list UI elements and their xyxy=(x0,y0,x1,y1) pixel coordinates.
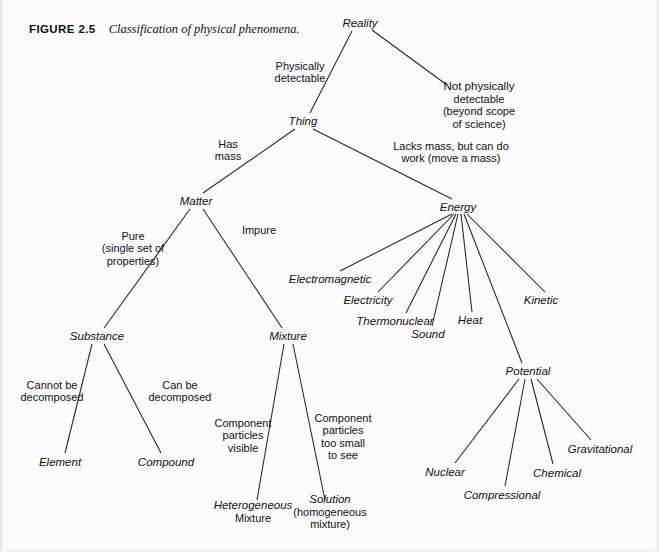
edge-label-has-mass: Hasmass xyxy=(215,138,241,163)
node-electricity: Electricity xyxy=(343,294,392,307)
edge-label-line: to see xyxy=(315,449,372,461)
edge-label-line: Can be xyxy=(149,379,212,391)
node-kinetic: Kinetic xyxy=(524,294,559,307)
node-label: Matter xyxy=(180,195,213,207)
edge-label-line: properties) xyxy=(102,254,164,266)
node-reality: Reality xyxy=(342,17,377,30)
node-sound: Sound xyxy=(411,328,444,341)
edge-label-line: particles xyxy=(215,429,272,441)
node-element: Element xyxy=(39,456,81,469)
node-label: Compressional xyxy=(464,489,541,501)
edge-label-line: Component xyxy=(215,417,272,429)
node-label: Nuclear xyxy=(425,466,465,478)
node-sublabel: Mixture xyxy=(214,512,293,524)
edge-label-cannot-be-decomposed: Cannot bedecomposed xyxy=(21,379,84,404)
node-label: Sound xyxy=(411,328,444,340)
edge-potential-to-gravitational xyxy=(537,379,591,440)
edge-label-line: detectable xyxy=(275,72,326,84)
node-label: Mixture xyxy=(269,330,307,342)
edge-label-pure: Pure(single set ofproperties) xyxy=(102,230,164,267)
node-compound: Compound xyxy=(138,456,194,469)
node-compressional: Compressional xyxy=(464,489,541,502)
edge-label-line: Lacks mass, but can do xyxy=(393,140,509,152)
node-sublabel: of science) xyxy=(443,118,515,130)
node-sublabel: mixture) xyxy=(293,518,366,530)
node-sublabel: (beyond scope xyxy=(443,105,515,117)
node-potential: Potential xyxy=(506,365,551,378)
node-label: Energy xyxy=(440,201,476,213)
edge-label-line: Cannot be xyxy=(21,379,84,391)
node-thing: Thing xyxy=(289,115,318,128)
edge-matter-to-substance xyxy=(104,209,190,328)
node-label: Gravitational xyxy=(568,443,633,455)
node-not_detectable: Not physicallydetectable(beyond scopeof … xyxy=(443,80,515,130)
node-label: Chemical xyxy=(533,467,581,479)
edge-reality-to-not_detectable xyxy=(372,30,447,85)
node-label: Heterogeneous xyxy=(214,499,293,511)
node-label: Electromagnetic xyxy=(289,273,371,285)
edge-label-line: Component xyxy=(315,412,372,424)
edge-potential-to-compressional xyxy=(505,379,525,486)
edge-energy-to-electromagnetic xyxy=(340,214,452,271)
node-label: Reality xyxy=(342,17,377,29)
node-label: Solution xyxy=(309,493,351,505)
node-label: Substance xyxy=(70,330,124,342)
node-electromagnetic: Electromagnetic xyxy=(289,273,371,286)
node-label: Potential xyxy=(506,365,551,377)
edge-potential-to-chemical xyxy=(531,379,553,464)
edge-energy-to-heat xyxy=(461,214,472,312)
node-nuclear: Nuclear xyxy=(425,466,465,479)
node-heat: Heat xyxy=(458,314,482,327)
edge-label-line: too small xyxy=(315,437,372,449)
edge-label-line: mass xyxy=(215,150,241,162)
node-label: Thing xyxy=(289,115,318,127)
edge-label-line: Physically xyxy=(275,60,326,72)
node-energy: Energy xyxy=(440,201,476,214)
edge-energy-to-thermonuclear xyxy=(406,214,456,313)
edge-label-line: Pure xyxy=(102,230,164,242)
edge-label-particles-too-small: Componentparticlestoo smallto see xyxy=(315,412,372,461)
edge-label-line: decomposed xyxy=(21,391,84,403)
node-solution: Solution(homogeneousmixture) xyxy=(293,493,366,531)
node-thermonuclear: Thermonuclear xyxy=(356,315,433,328)
node-sublabel: detectable xyxy=(443,93,515,105)
node-label: Thermonuclear xyxy=(356,315,433,327)
edge-label-line: particles xyxy=(315,425,372,437)
node-mixture: Mixture xyxy=(269,330,307,343)
node-matter: Matter xyxy=(180,195,213,208)
edge-label-impure: Impure xyxy=(242,224,276,236)
edge-label-line: (single set of xyxy=(102,242,164,254)
edge-label-line: visible xyxy=(215,441,272,453)
edge-energy-to-sound xyxy=(432,214,458,326)
node-label: Compound xyxy=(138,456,194,468)
node-substance: Substance xyxy=(70,330,124,343)
edge-label-particles-visible: Componentparticlesvisible xyxy=(215,417,272,454)
edge-label-line: decomposed xyxy=(149,391,212,403)
node-label: Kinetic xyxy=(524,294,559,306)
edge-label-can-be-decomposed: Can bedecomposed xyxy=(149,379,212,404)
edge-label-line: work (move a mass) xyxy=(393,152,509,164)
node-label: Heat xyxy=(458,314,482,326)
edge-label-line: Impure xyxy=(242,224,276,236)
node-label: Element xyxy=(39,456,81,468)
node-sublabel: (homogeneous xyxy=(293,506,366,518)
edge-label-physically-detectable: Physicallydetectable xyxy=(275,60,326,85)
edge-potential-to-nuclear xyxy=(455,379,519,463)
node-label: Electricity xyxy=(343,294,392,306)
figure-page: FIGURE 2.5Classification of physical phe… xyxy=(0,0,659,552)
node-chemical: Chemical xyxy=(533,467,581,480)
edge-label-lacks-mass: Lacks mass, but can dowork (move a mass) xyxy=(393,140,509,165)
node-gravitational: Gravitational xyxy=(568,443,633,456)
edge-label-line: Has xyxy=(215,138,241,150)
node-heterogeneous: HeterogeneousMixture xyxy=(214,499,293,524)
edge-energy-to-potential xyxy=(464,214,522,363)
node-label: Not physically xyxy=(444,80,515,92)
